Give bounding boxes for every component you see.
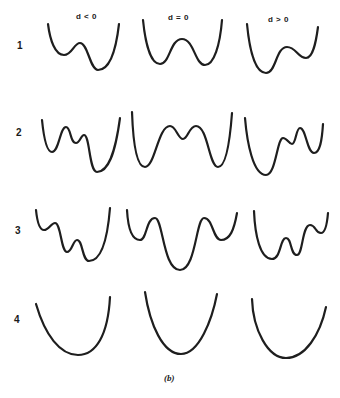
curve-row1-d-positive <box>247 24 318 73</box>
curve-row4-d-negative <box>36 297 110 355</box>
curve-row4-d-positive <box>252 299 326 358</box>
curve-row3-d-zero <box>127 210 237 270</box>
curve-row2-d-positive <box>245 118 323 175</box>
curve-row3-d-positive <box>254 211 328 259</box>
curve-row4-d-zero <box>145 292 217 354</box>
potential-curves-figure: d < 0 d = 0 d > 0 1 2 3 4 (b) <box>0 0 340 398</box>
curve-row3-d-negative <box>36 208 110 261</box>
figure-caption: (b) <box>164 373 175 383</box>
curve-row2-d-negative <box>42 118 120 172</box>
curves-canvas <box>0 0 340 398</box>
curve-row1-d-zero <box>143 20 222 65</box>
curve-row2-d-zero <box>132 112 232 167</box>
curve-row1-d-negative <box>48 24 119 70</box>
